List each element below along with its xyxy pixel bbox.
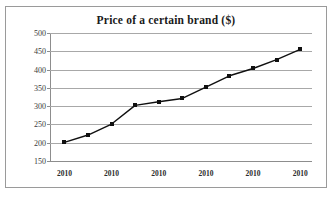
plot-area: 150200250300350400450500 201020102010201… <box>50 33 312 161</box>
data-point-10 <box>298 47 302 51</box>
y-tick-label-500: 500 <box>34 29 46 38</box>
y-tick-label-400: 400 <box>34 65 46 74</box>
x-tick-label-1: 2010 <box>104 169 119 178</box>
data-point-1 <box>86 133 90 137</box>
x-axis-line <box>50 161 312 162</box>
data-point-6 <box>204 85 208 89</box>
y-tick-label-250: 250 <box>34 120 46 129</box>
x-tick-label-2: 2010 <box>151 169 166 178</box>
y-tick-label-350: 350 <box>34 83 46 92</box>
chart-frame: Price of a certain brand ($) 15020025030… <box>5 6 327 188</box>
x-tick-label-0: 2010 <box>57 169 72 178</box>
y-tick-label-300: 300 <box>34 102 46 111</box>
data-point-8 <box>251 66 255 70</box>
y-tick-mark-150 <box>47 161 50 162</box>
y-tick-label-450: 450 <box>34 47 46 56</box>
y-tick-label-200: 200 <box>34 138 46 147</box>
x-tick-label-5: 2010 <box>293 169 308 178</box>
data-point-2 <box>110 122 114 126</box>
data-point-0 <box>62 140 66 144</box>
x-tick-label-3: 2010 <box>198 169 213 178</box>
x-tick-label-4: 2010 <box>246 169 261 178</box>
data-point-5 <box>180 96 184 100</box>
y-tick-label-150: 150 <box>34 157 46 166</box>
data-point-9 <box>275 58 279 62</box>
data-point-3 <box>133 103 137 107</box>
data-point-7 <box>227 74 231 78</box>
data-point-4 <box>157 100 161 104</box>
chart-title: Price of a certain brand ($) <box>6 14 326 26</box>
line-chart: Price of a certain brand ($) 15020025030… <box>6 7 326 187</box>
